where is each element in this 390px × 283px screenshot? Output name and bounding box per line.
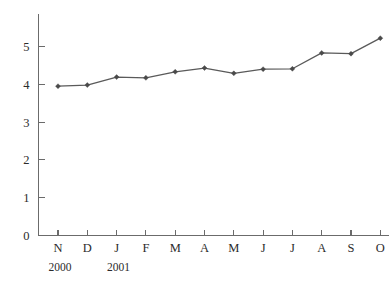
x-axis-tick-label: F [142, 241, 149, 255]
x-axis-tick-label: J [114, 241, 119, 255]
x-axis-tick-label: J [290, 241, 295, 255]
line-chart: 012345 NDJFMAMJJASO 20002001 [0, 0, 390, 283]
x-axis-tick-label: A [317, 241, 326, 255]
x-axis-tick-label: D [83, 241, 92, 255]
chart-canvas: 012345 NDJFMAMJJASO 20002001 [0, 0, 390, 283]
year-label: 2001 [107, 261, 130, 273]
y-axis-tick-label: 0 [23, 229, 29, 243]
y-axis-tick-label: 4 [23, 78, 30, 92]
y-axis-tick-label: 2 [23, 153, 29, 167]
x-axis-tick-label: M [170, 241, 181, 255]
x-axis-tick-label: N [53, 241, 62, 255]
y-axis-tick-label: 1 [23, 191, 29, 205]
x-axis-tick-label: S [348, 241, 355, 255]
year-label: 2000 [49, 261, 72, 273]
y-axis-tick-label: 3 [23, 116, 29, 130]
x-axis-tick-label: A [200, 241, 209, 255]
x-axis-tick-label: M [228, 241, 239, 255]
x-axis-tick-label: O [376, 241, 385, 255]
x-axis-tick-label: J [261, 241, 266, 255]
y-axis-tick-label: 5 [23, 40, 29, 54]
